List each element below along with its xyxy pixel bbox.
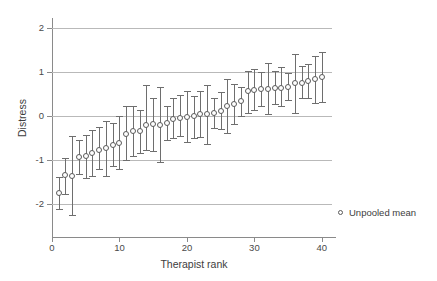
error-bar-cap-upper xyxy=(177,95,184,96)
error-bar-cap-lower xyxy=(305,98,312,99)
error-bar-cap-lower xyxy=(170,138,177,139)
y-tick-label: 2 xyxy=(26,23,44,33)
error-bar-cap-lower xyxy=(258,106,265,107)
error-bar-cap-upper xyxy=(305,64,312,65)
data-point-marker xyxy=(89,150,95,156)
y-axis-title: Distress xyxy=(16,63,28,173)
error-bar-cap-lower xyxy=(76,174,83,175)
error-bar-cap-lower xyxy=(191,138,198,139)
error-bar-cap-lower xyxy=(231,124,238,125)
x-tick-label: 30 xyxy=(242,243,266,253)
data-point-marker xyxy=(76,154,82,160)
error-bar-cap-upper xyxy=(157,87,164,88)
error-bar-cap-upper xyxy=(110,123,117,124)
error-bar-cap-lower xyxy=(292,113,299,114)
data-point-marker xyxy=(164,120,170,126)
gridline-y xyxy=(52,28,332,29)
data-point-marker xyxy=(123,131,129,137)
legend-label: Unpooled mean xyxy=(349,207,416,218)
data-point-marker xyxy=(245,88,251,94)
error-bar-cap-lower xyxy=(197,137,204,138)
x-tick-label: 10 xyxy=(107,243,131,253)
error-bar-cap-upper xyxy=(312,56,319,57)
error-bar-cap-upper xyxy=(116,116,123,117)
data-point-marker xyxy=(177,115,183,121)
error-bar-cap-lower xyxy=(319,102,326,103)
data-point-marker xyxy=(218,108,224,114)
error-bar-cap-lower xyxy=(96,169,103,170)
error-bar-cap-upper xyxy=(76,140,83,141)
error-bar-cap-lower xyxy=(89,176,96,177)
x-tick-label: 0 xyxy=(40,243,64,253)
error-bar-cap-upper xyxy=(69,136,76,137)
error-bar-cap-upper xyxy=(191,96,198,97)
error-bar-cap-upper xyxy=(231,84,238,85)
error-bar-cap-upper xyxy=(211,98,218,99)
error-bar-cap-upper xyxy=(164,106,171,107)
gridline-y xyxy=(52,160,332,161)
data-point-marker xyxy=(143,122,149,128)
y-tick-label-wrap: 2 xyxy=(22,23,44,33)
gridline-y xyxy=(52,204,332,205)
data-point-marker xyxy=(62,172,68,178)
data-point-marker xyxy=(292,80,298,86)
data-point-marker xyxy=(299,80,305,86)
error-bar-cap-upper xyxy=(197,91,204,92)
error-bar-cap-upper xyxy=(137,110,144,111)
error-bar-cap-upper xyxy=(218,92,225,93)
legend-marker-icon xyxy=(338,210,343,215)
error-bar-cap-upper xyxy=(319,52,326,53)
error-bar-cap-upper xyxy=(184,91,191,92)
data-point-marker xyxy=(258,86,264,92)
error-bar-cap-lower xyxy=(278,106,285,107)
x-tick-label: 40 xyxy=(310,243,334,253)
error-bar-cap-lower xyxy=(123,160,130,161)
error-bar-cap-lower xyxy=(110,166,117,167)
error-bar-cap-lower xyxy=(224,133,231,134)
data-point-marker xyxy=(285,84,291,90)
error-bar-cap-upper xyxy=(62,158,69,159)
error-bar-cap-upper xyxy=(224,79,231,80)
error-bar-cap-upper xyxy=(238,87,245,88)
y-tick-mark xyxy=(47,72,52,73)
chart-container: 210-1-2 010203040 Therapist rank Distres… xyxy=(0,0,437,281)
error-bar-cap-lower xyxy=(312,103,319,104)
data-point-marker xyxy=(272,85,278,91)
error-bar-cap-lower xyxy=(137,153,144,154)
data-point-marker xyxy=(116,140,122,146)
error-bar-cap-lower xyxy=(103,176,110,177)
data-point-marker xyxy=(319,74,325,80)
data-point-marker xyxy=(170,116,176,122)
error-bar-cap-upper xyxy=(56,177,63,178)
y-tick-mark xyxy=(47,28,52,29)
error-bar-cap-upper xyxy=(150,98,157,99)
error-bar-cap-upper xyxy=(299,66,306,67)
error-bar-cap-lower xyxy=(130,156,137,157)
data-point-marker xyxy=(69,173,75,179)
error-bar-cap-upper xyxy=(89,130,96,131)
data-point-marker xyxy=(110,142,116,148)
data-point-marker xyxy=(305,78,311,84)
data-point-marker xyxy=(96,147,102,153)
y-tick-mark xyxy=(47,116,52,117)
error-bar-cap-lower xyxy=(164,140,171,141)
data-point-marker xyxy=(103,145,109,151)
error-bar-cap-lower xyxy=(177,136,184,137)
data-point-marker xyxy=(150,121,156,127)
error-bar-cap-lower xyxy=(150,151,157,152)
y-tick-mark xyxy=(47,160,52,161)
error-bar-cap-lower xyxy=(218,129,225,130)
error-bar-cap-lower xyxy=(116,169,123,170)
x-axis-title: Therapist rank xyxy=(52,258,336,270)
error-bar-cap-upper xyxy=(278,67,285,68)
y-tick-label: 1 xyxy=(26,67,44,77)
error-bar-cap-upper xyxy=(251,69,258,70)
error-bar-cap-upper xyxy=(292,54,299,55)
plot-area xyxy=(52,21,332,219)
error-bar-cap-upper xyxy=(285,73,292,74)
data-point-marker xyxy=(83,153,89,159)
data-point-marker xyxy=(231,101,237,107)
error-bar-cap-upper xyxy=(83,135,90,136)
error-bar-cap-lower xyxy=(56,209,63,210)
data-point-marker xyxy=(278,85,284,91)
